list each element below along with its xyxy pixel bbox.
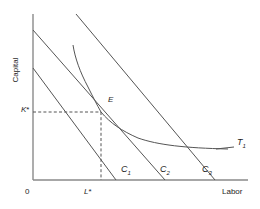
- c2-subscript: 2: [167, 170, 170, 176]
- l-star-tick-label: L*: [84, 188, 92, 196]
- y-axis-label: Capital: [12, 45, 20, 95]
- k-star-asterisk: *: [26, 105, 29, 114]
- isoquant-curve-t1: [73, 45, 228, 149]
- figure-canvas: Capital Labor 0 K* L* E C1 C2 C3 T1: [0, 0, 260, 209]
- origin-label: 0: [25, 188, 29, 196]
- isoquant-label-t1: T1: [237, 138, 246, 149]
- x-axis-label: Labor: [222, 188, 242, 196]
- isoquant-isocost-chart: [0, 0, 260, 209]
- l-star-asterisk: *: [88, 187, 91, 196]
- isocost-label-c1: C1: [121, 165, 131, 176]
- isocost-line-c3: [76, 14, 215, 180]
- isocost-label-c2: C2: [160, 165, 170, 176]
- axes-group: [33, 14, 248, 180]
- isocost-label-c3: C3: [202, 165, 212, 176]
- c1-subscript: 1: [128, 170, 131, 176]
- c3-subscript: 3: [209, 170, 212, 176]
- isocost-line-c1: [33, 68, 116, 180]
- k-star-tick-label: K*: [21, 106, 29, 114]
- equilibrium-point-label: E: [108, 96, 113, 104]
- t1-subscript: 1: [243, 143, 246, 149]
